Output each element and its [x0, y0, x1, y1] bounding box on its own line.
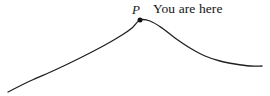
point-label-p: P: [132, 3, 140, 16]
figure-container: P You are here: [0, 0, 270, 96]
curve-path: [8, 19, 262, 92]
annotation-you-are-here: You are here: [153, 2, 223, 16]
point-marker-p: [138, 18, 143, 23]
